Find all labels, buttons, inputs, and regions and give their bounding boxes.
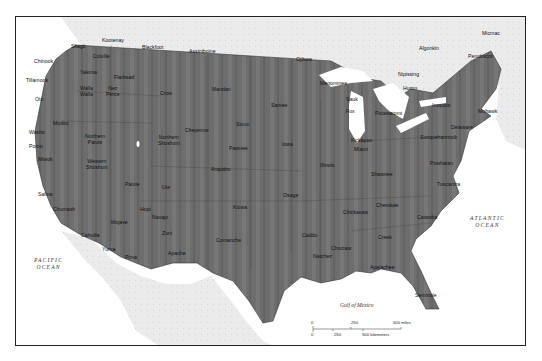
tribe-label: Assiniboine [189, 49, 216, 55]
tribe-label: Delaware [451, 125, 473, 131]
tribe-label: Creek [378, 235, 392, 241]
tribe-label: Cherokee [376, 203, 399, 209]
pacific-ocean-label: PACIFIC OCEAN [34, 257, 63, 271]
tribe-label: Mandan [212, 87, 231, 93]
tribe-label: Skagit [71, 44, 85, 50]
tribe-label: Blackfoot [142, 45, 163, 51]
scale-km-0: 0 [311, 332, 313, 337]
tribe-label: Salina [38, 192, 52, 198]
tribe-label: Yakima [80, 70, 97, 76]
tribe-label: Pomo [29, 144, 43, 150]
tribe-label: Kiowa [233, 205, 247, 211]
tribe-label: Washo [29, 130, 45, 136]
tribe-label: Yuma [102, 247, 115, 253]
tribe-label: Sauk [346, 97, 358, 103]
tribe-label: NorthernShoshoni [158, 135, 180, 146]
atlantic-line-1: ATLANTIC [470, 215, 505, 222]
tribe-label: Modoc [53, 121, 69, 127]
great-salt-lake [137, 141, 140, 147]
tribe-label: Fox [346, 109, 355, 115]
tribe-label: WallaWalla [80, 86, 93, 97]
tribe-label: Miwok [38, 157, 53, 163]
tribe-label: Shawnee [371, 172, 393, 178]
tribe-label: Micmac [482, 31, 500, 37]
tribe-label: Mojave [111, 220, 128, 226]
tribe-label: Comanche [216, 238, 241, 244]
tribe-label: NezPerce [106, 86, 120, 97]
tribe-label: Chumash [53, 207, 75, 213]
tribe-label: Catawba [417, 215, 437, 221]
tribe-label: Miami [354, 147, 368, 153]
tribe-label: Mohawk [478, 109, 497, 115]
tribe-label: NorthernPaiute [85, 134, 105, 145]
tribe-label: Cahuilla [81, 233, 100, 239]
tribe-label: Choctaw [331, 246, 351, 252]
scale-miles-250: 250 [351, 320, 358, 325]
tribe-label: Zuni [162, 231, 172, 237]
tribe-label: Ute [162, 185, 170, 191]
atlantic-line-2: OCEAN [470, 222, 505, 229]
tribe-label: Algonkin [419, 46, 439, 52]
tribe-label: Santee [271, 103, 287, 109]
tribe-label: WesternShoshoni [86, 159, 108, 170]
tribe-label: Nipissing [398, 72, 419, 78]
tribe-label: Crow [160, 91, 172, 97]
tribe-label: Tuscarora [437, 182, 460, 188]
tribe-label: Navajo [152, 215, 168, 221]
tribe-label: Menominee [320, 81, 347, 87]
tribe-label: Flathead [114, 75, 134, 81]
tribe-label: Potawatomi [375, 111, 402, 117]
tribe-label: Tillamook [26, 78, 48, 84]
tribe-label: Illinois [320, 163, 334, 169]
tribe-label: Penobscot [468, 54, 493, 60]
tribe-label: Pawnee [229, 146, 248, 152]
tribe-label: Apalachee [370, 265, 395, 271]
scale-km-500: 500 kilometers [362, 332, 389, 337]
pacific-line-2: OCEAN [34, 264, 63, 271]
tribe-label: Powhatan [430, 161, 453, 167]
tribe-label: Oto [35, 97, 43, 103]
gulf-of-mexico-label: Gulf of Mexico [340, 302, 374, 308]
tribe-label: Chickasaw [343, 210, 368, 216]
tribe-label: Ojibwa [296, 57, 312, 63]
scale-miles-0: 0 [311, 320, 313, 325]
tribe-label: Kootenay [102, 38, 124, 44]
tribe-label: Colville [93, 54, 110, 60]
tribe-label: Hopi [140, 207, 151, 213]
scale-miles-500: 500 miles [393, 320, 411, 325]
tribe-label: Iroquois [432, 103, 450, 109]
tribe-label: Chinook [34, 59, 53, 65]
tribe-label: Iowa [282, 142, 293, 148]
tribe-label: Pima [125, 255, 137, 261]
tribe-label: Kickapoo [351, 138, 372, 144]
scale-km-250: 250 [334, 332, 341, 337]
tribe-label: Osage [283, 193, 298, 199]
tribe-label: Paiute [125, 182, 140, 188]
tribe-label: Sioux [236, 122, 249, 128]
pacific-line-1: PACIFIC [34, 257, 63, 264]
tribe-label: Susquehannock [420, 135, 457, 141]
tribe-label: Cheyenne [185, 128, 209, 134]
tribe-label: Huron [403, 86, 417, 92]
atlantic-ocean-label: ATLANTIC OCEAN [470, 215, 505, 229]
tribe-label: Natchez [313, 254, 332, 260]
tribe-label: Arapaho [211, 167, 231, 173]
tribe-label: Apache [168, 251, 186, 257]
tribe-label: Seminole [415, 293, 437, 299]
tribe-label: Caddo [302, 233, 317, 239]
